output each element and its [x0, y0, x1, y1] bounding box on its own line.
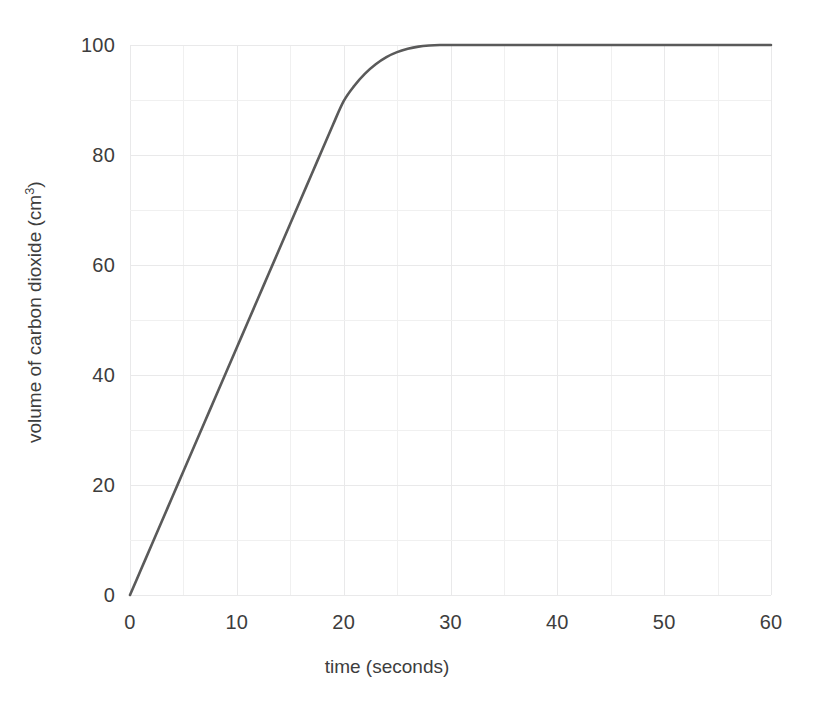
x-axis-title: time (seconds) [0, 656, 814, 678]
gridline-horizontal [130, 595, 771, 596]
x-axis-tick-label: 0 [90, 612, 170, 632]
x-axis-tick-label: 60 [731, 612, 811, 632]
y-axis-tick-label: 0 [55, 585, 115, 605]
y-axis-title-text: volume of carbon dioxide (cm3) [22, 32, 46, 592]
x-axis-title-text: time (seconds) [325, 656, 450, 678]
gridline-vertical [771, 45, 772, 595]
x-axis-tick-label: 20 [304, 612, 384, 632]
x-axis-tick-label: 10 [197, 612, 277, 632]
y-axis-tick-label: 60 [55, 255, 115, 275]
y-axis-title-main: volume of carbon dioxide (cm [24, 195, 45, 443]
y-axis-tick-label: 40 [55, 365, 115, 385]
y-axis-tick-label: 100 [55, 35, 115, 55]
y-axis-title: volume of carbon dioxide (cm3) [0, 0, 50, 702]
y-axis-tick-label: 80 [55, 145, 115, 165]
y-axis-title-superscript: 3 [22, 188, 37, 195]
x-axis-tick-label: 40 [517, 612, 597, 632]
series-line-volume-of-carbon-dioxide [130, 45, 771, 595]
plot-area [130, 45, 771, 595]
y-axis-tick-label: 20 [55, 475, 115, 495]
x-axis-tick-labels: 0102030405060 [0, 612, 814, 640]
y-axis-title-tail: ) [24, 181, 45, 187]
chart-figure: 020406080100 0102030405060 time (seconds… [0, 0, 814, 702]
x-axis-tick-label: 30 [411, 612, 491, 632]
x-axis-tick-label: 50 [624, 612, 704, 632]
y-axis-tick-labels: 020406080100 [53, 0, 115, 702]
